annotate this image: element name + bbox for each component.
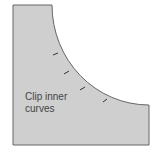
fabric-diagram [0,0,162,159]
label-line-2: curves [25,103,67,115]
clip-inner-curves-label: Clip inner curves [25,91,67,115]
fabric-piece [13,5,149,145]
label-line-1: Clip inner [25,91,67,103]
